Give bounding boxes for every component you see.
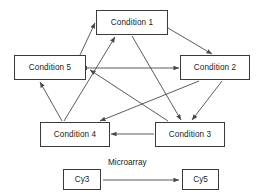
node-condition-3-label: Condition 3 <box>169 130 212 139</box>
legend-node-cy3-label: Cy3 <box>75 175 90 184</box>
node-condition-1[interactable]: Condition 1 <box>96 10 168 35</box>
node-condition-5[interactable]: Condition 5 <box>14 55 86 80</box>
legend-node-cy5[interactable]: Cy5 <box>182 169 219 190</box>
edge-c1-to-c3 <box>132 36 181 120</box>
legend-node-cy3[interactable]: Cy3 <box>63 169 101 190</box>
node-condition-4[interactable]: Condition 4 <box>40 122 110 147</box>
node-condition-2[interactable]: Condition 2 <box>180 55 250 80</box>
node-condition-2-label: Condition 2 <box>194 63 237 72</box>
node-condition-3[interactable]: Condition 3 <box>155 122 225 147</box>
edge-c5-to-c1 <box>80 23 95 55</box>
edge-c2-to-c4 <box>100 81 199 121</box>
legend-edge-label: Microarray <box>108 158 147 167</box>
diagram-canvas: Condition 1 Condition 5 Condition 2 Cond… <box>0 0 264 196</box>
node-condition-1-label: Condition 1 <box>111 18 154 27</box>
edge-c2-to-c3 <box>192 81 222 120</box>
edge-c1-to-c2 <box>168 28 212 54</box>
legend-node-cy5-label: Cy5 <box>193 175 208 184</box>
edge-c4-to-c5 <box>40 82 62 121</box>
node-condition-4-label: Condition 4 <box>54 130 97 139</box>
node-condition-5-label: Condition 5 <box>29 63 72 72</box>
